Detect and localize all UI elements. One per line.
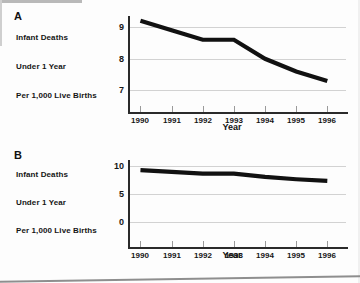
chart-panel-b: B Infant Deaths Under 1 Year Per 1,000 L… bbox=[0, 142, 360, 278]
y-tick-label: 10 bbox=[102, 161, 124, 171]
x-axis-line bbox=[128, 247, 348, 249]
panel-label-b: B bbox=[14, 149, 22, 161]
panel-b-x-axis-title: Year bbox=[222, 250, 241, 260]
y-tick-label: 8 bbox=[102, 54, 124, 64]
x-tick-label: 1994 bbox=[256, 116, 274, 125]
x-tick-label: 1992 bbox=[194, 251, 212, 260]
panel-b-caption-line-3: Per 1,000 Live Births bbox=[16, 226, 97, 235]
plot-area-a: 7891990199119921993199419951996 bbox=[128, 16, 346, 100]
x-axis-line bbox=[128, 112, 348, 114]
x-tick-label: 1991 bbox=[163, 116, 181, 125]
panel-a-caption-line-3: Per 1,000 Live Births bbox=[16, 91, 97, 100]
plot-area-b: 05101990199119921993199419951996 bbox=[128, 160, 346, 225]
figure-page: A Infant Deaths Under 1 Year Per 1,000 L… bbox=[0, 0, 360, 283]
panel-label-a: A bbox=[14, 10, 22, 22]
x-tick-label: 1995 bbox=[287, 251, 305, 260]
x-tick-label: 1992 bbox=[194, 116, 212, 125]
series-line-a bbox=[128, 16, 346, 112]
y-tick-label: 0 bbox=[102, 217, 124, 227]
x-tick-label: 1996 bbox=[318, 116, 336, 125]
series-line-b bbox=[128, 160, 346, 247]
panel-a-caption-line-1: Infant Deaths bbox=[16, 33, 68, 42]
panel-a-x-axis-title: Year bbox=[222, 122, 241, 132]
panel-a-caption-line-2: Under 1 Year bbox=[16, 62, 66, 71]
x-tick-label: 1990 bbox=[131, 251, 149, 260]
y-tick-label: 9 bbox=[102, 22, 124, 32]
panel-b-caption-line-1: Infant Deaths bbox=[16, 170, 68, 179]
x-tick-label: 1994 bbox=[256, 251, 274, 260]
data-series-path bbox=[140, 21, 327, 81]
x-tick-label: 1991 bbox=[163, 251, 181, 260]
x-tick-label: 1995 bbox=[287, 116, 305, 125]
chart-panel-a: A Infant Deaths Under 1 Year Per 1,000 L… bbox=[0, 0, 360, 142]
panel-b-caption-line-2: Under 1 Year bbox=[16, 198, 66, 207]
x-tick-label: 1996 bbox=[318, 251, 336, 260]
x-tick-label: 1990 bbox=[131, 116, 149, 125]
y-tick-label: 5 bbox=[102, 189, 124, 199]
data-series-path bbox=[140, 170, 327, 181]
y-tick-label: 7 bbox=[102, 85, 124, 95]
